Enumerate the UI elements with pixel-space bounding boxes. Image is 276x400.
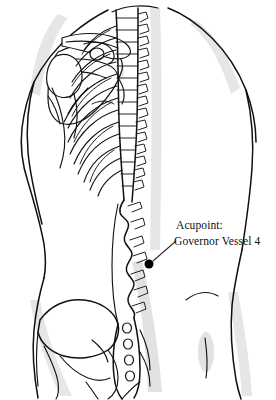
acupoint-label-name: Governor Vessel 4	[174, 236, 260, 248]
anatomical-figure: .ln { fill:none; stroke:#101010; stroke-…	[0, 0, 276, 400]
acupoint-label-title: Acupoint:	[176, 220, 223, 232]
anatomy-illustration: .ln { fill:none; stroke:#101010; stroke-…	[0, 0, 276, 400]
